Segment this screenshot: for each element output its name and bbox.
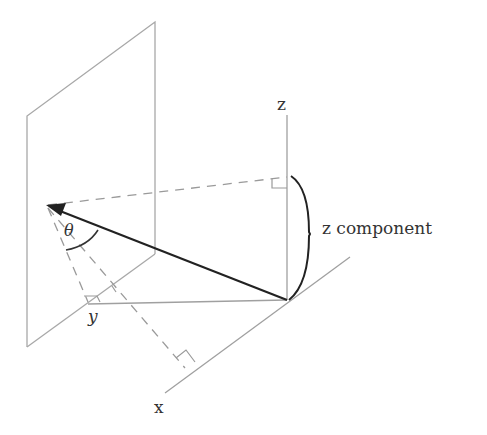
z-component-label: z component bbox=[322, 218, 432, 238]
angle-theta-label: θ bbox=[64, 221, 74, 240]
vector-arrow bbox=[46, 203, 287, 300]
x-axis-line bbox=[165, 257, 350, 393]
y-axis-line bbox=[88, 300, 287, 304]
z-component-brace bbox=[289, 176, 310, 300]
projection-lines bbox=[48, 177, 287, 368]
vector-components-diagram: z x y θ z component bbox=[0, 0, 487, 435]
vertical-plane bbox=[27, 22, 155, 347]
x-axis-label: x bbox=[154, 397, 164, 417]
y-axis-label: y bbox=[87, 306, 98, 326]
diagram-canvas: z x y θ z component bbox=[0, 0, 487, 435]
right-angle-markers bbox=[84, 179, 287, 362]
axes bbox=[88, 115, 350, 393]
z-axis-label: z bbox=[277, 94, 286, 114]
